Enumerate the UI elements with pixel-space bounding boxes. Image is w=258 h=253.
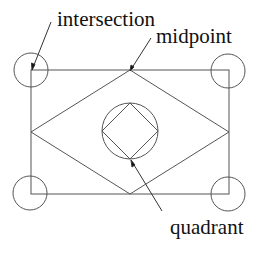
corner-circle-top-right [211, 54, 245, 88]
quadrant-label: quadrant [170, 215, 244, 239]
midpoint-label: midpoint [156, 24, 232, 48]
intersection-label: intersection [57, 7, 155, 31]
snap-points-diagram: intersection midpoint quadrant [0, 0, 258, 253]
intersection-leader [32, 22, 51, 70]
quadrant-leader [131, 160, 162, 211]
intersection-arrowhead-icon [32, 63, 36, 70]
center-circle [102, 103, 158, 159]
corner-circle-bottom-left [13, 176, 47, 210]
outer-diamond [31, 70, 229, 194]
quadrant-arrowhead-icon [131, 160, 135, 167]
outer-rectangle [31, 70, 229, 194]
